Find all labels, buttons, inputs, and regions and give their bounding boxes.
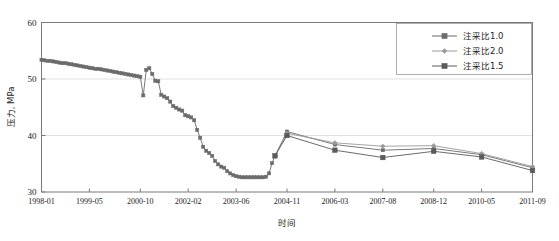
data-point-marker bbox=[43, 59, 46, 62]
data-point-marker bbox=[169, 100, 172, 103]
data-point-marker bbox=[178, 108, 181, 111]
data-point-marker bbox=[61, 62, 64, 65]
data-point-marker bbox=[115, 71, 118, 74]
data-point-marker bbox=[58, 61, 61, 64]
data-point-marker bbox=[121, 72, 124, 75]
data-point-marker bbox=[285, 133, 290, 138]
data-point-marker bbox=[258, 176, 261, 179]
data-point-marker bbox=[240, 176, 243, 179]
data-point-marker bbox=[270, 162, 273, 165]
legend-label: 注采比1.5 bbox=[463, 61, 504, 71]
data-point-marker bbox=[237, 175, 240, 178]
data-point-marker bbox=[442, 63, 447, 68]
data-point-marker bbox=[333, 148, 338, 153]
data-point-marker bbox=[199, 136, 202, 139]
x-tick-label: 2002-02 bbox=[175, 197, 202, 206]
data-point-marker bbox=[196, 128, 199, 131]
data-point-marker bbox=[85, 66, 88, 69]
data-point-marker bbox=[157, 80, 160, 83]
data-point-marker bbox=[109, 69, 112, 72]
x-tick-label: 2010-05 bbox=[468, 197, 495, 206]
data-point-marker bbox=[133, 74, 136, 77]
data-point-marker bbox=[100, 68, 103, 71]
y-tick-label: 60 bbox=[28, 18, 38, 28]
data-point-marker bbox=[67, 62, 70, 65]
data-point-marker bbox=[46, 59, 49, 62]
data-point-marker bbox=[479, 155, 484, 160]
data-point-marker bbox=[223, 166, 226, 169]
data-point-marker bbox=[136, 75, 139, 78]
x-tick-label: 2000-10 bbox=[127, 197, 154, 206]
data-point-marker bbox=[202, 145, 205, 148]
legend-entries: 注采比1.0注采比2.0注采比1.5 bbox=[432, 31, 504, 71]
data-point-marker bbox=[163, 95, 166, 98]
data-point-marker bbox=[249, 176, 252, 179]
data-point-marker bbox=[205, 149, 208, 152]
data-point-marker bbox=[40, 58, 43, 61]
data-point-marker bbox=[154, 79, 157, 82]
data-point-marker bbox=[139, 75, 142, 78]
x-tick-label: 1998-01 bbox=[28, 197, 55, 206]
y-tick-label: 30 bbox=[28, 187, 38, 197]
chart-canvas: 30405060 1998-011999-052000-102002-02200… bbox=[0, 0, 559, 241]
x-tick-label: 1999-05 bbox=[76, 197, 103, 206]
data-point-marker bbox=[217, 163, 220, 166]
data-point-marker bbox=[160, 93, 163, 96]
data-point-marker bbox=[246, 176, 249, 179]
data-point-marker bbox=[166, 97, 169, 100]
x-axis-title: 时间 bbox=[278, 218, 296, 228]
data-point-marker bbox=[124, 72, 127, 75]
data-point-marker bbox=[88, 66, 91, 69]
pressure-vs-time-chart: 30405060 1998-011999-052000-102002-02200… bbox=[0, 0, 559, 241]
data-point-marker bbox=[73, 63, 76, 66]
data-point-marker bbox=[97, 67, 100, 70]
data-point-marker bbox=[145, 68, 148, 71]
data-point-marker bbox=[76, 64, 79, 67]
data-point-marker bbox=[243, 176, 246, 179]
data-point-marker bbox=[252, 176, 255, 179]
x-tick-label: 2008-12 bbox=[420, 197, 447, 206]
data-point-marker bbox=[190, 116, 193, 119]
x-tick-label: 2011-09 bbox=[519, 197, 545, 206]
data-point-marker bbox=[172, 105, 175, 108]
data-point-marker bbox=[193, 119, 196, 122]
data-point-marker bbox=[187, 115, 190, 118]
x-tick-label: 2007-08 bbox=[369, 197, 396, 206]
data-point-marker bbox=[181, 109, 184, 112]
legend-label: 注采比1.0 bbox=[463, 31, 504, 41]
data-point-marker bbox=[220, 165, 223, 168]
data-point-marker bbox=[49, 59, 52, 62]
y-tick-label: 40 bbox=[28, 131, 38, 141]
legend[interactable]: 注采比1.0注采比2.0注采比1.5 bbox=[397, 24, 532, 75]
data-point-marker bbox=[229, 172, 232, 175]
data-point-marker bbox=[431, 149, 436, 154]
data-point-marker bbox=[142, 94, 145, 97]
data-point-marker bbox=[261, 176, 264, 179]
data-point-marker bbox=[214, 159, 217, 162]
data-point-marker bbox=[208, 151, 211, 154]
data-point-marker bbox=[226, 169, 229, 172]
data-point-marker bbox=[211, 154, 214, 157]
data-point-marker bbox=[232, 173, 235, 176]
data-point-marker bbox=[94, 67, 97, 70]
data-point-marker bbox=[184, 114, 187, 117]
x-tick-label: 2003-06 bbox=[223, 197, 250, 206]
data-point-marker bbox=[55, 60, 58, 63]
data-point-marker bbox=[381, 155, 386, 160]
y-axis-title: 压力, MPa bbox=[6, 87, 16, 128]
legend-label: 注采比2.0 bbox=[463, 46, 504, 56]
data-point-marker bbox=[175, 106, 178, 109]
data-point-marker bbox=[442, 33, 447, 38]
x-tick-label: 2004-11 bbox=[274, 197, 300, 206]
data-point-marker bbox=[530, 168, 535, 173]
data-point-marker bbox=[103, 68, 106, 71]
data-point-marker bbox=[91, 67, 94, 70]
data-point-marker bbox=[255, 176, 258, 179]
data-point-marker bbox=[52, 60, 55, 63]
data-point-marker bbox=[148, 67, 151, 70]
data-point-marker bbox=[273, 154, 278, 159]
data-point-marker bbox=[235, 175, 238, 178]
x-tick-label: 2006-03 bbox=[322, 197, 349, 206]
data-point-marker bbox=[82, 65, 85, 68]
data-point-marker bbox=[64, 62, 67, 65]
